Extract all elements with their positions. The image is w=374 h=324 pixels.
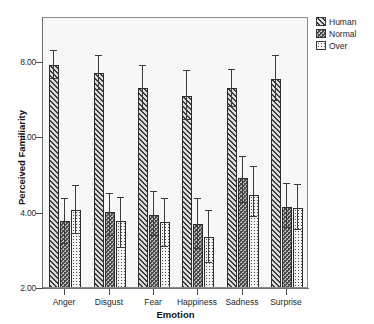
legend-swatch-over-icon [316,41,326,50]
error-bar-stem [208,210,209,263]
x-tick [64,289,65,295]
error-bar-cap-upper [72,185,79,186]
error-bar-cap-upper [294,184,301,185]
x-tick [197,289,198,295]
error-bar-cap-upper [61,198,68,199]
x-tick-label: Happiness [177,297,217,307]
bar [94,73,104,288]
error-bar-cap-upper [205,210,212,211]
error-bar-cap-lower [272,100,279,101]
y-tick [36,288,43,289]
error-bar-stem [164,198,165,246]
error-bar-cap-upper [183,70,190,71]
error-bar-stem [231,69,232,106]
y-tick [36,213,43,214]
plot-inner [43,18,307,287]
error-bar-cap-upper [239,156,246,157]
error-bar-cap-lower [95,89,102,90]
legend-swatch-normal-icon [316,29,326,38]
x-tick-label: Surprise [270,297,302,307]
x-tick [286,289,287,295]
y-tick-label: 2.00 [0,283,36,293]
bar-chart: 2.004.006.008.00AngerDisgustFearHappines… [0,0,374,324]
x-axis-line [42,288,309,289]
error-bar-stem [242,156,243,202]
error-bar-cap-upper [150,191,157,192]
error-bar-cap-lower [294,229,301,230]
error-bar-cap-upper [283,183,290,184]
error-bar-cap-upper [161,198,168,199]
x-axis-title: Emotion [42,309,309,320]
error-bar-stem [286,183,287,227]
error-bar-cap-upper [106,193,113,194]
y-tick [36,62,43,63]
error-bar-cap-upper [272,55,279,56]
error-bar-stem [197,198,198,249]
error-bar-cap-upper [228,69,235,70]
error-bar-stem [275,55,276,99]
legend-item-normal[interactable]: Normal [316,28,374,39]
x-tick-label: Fear [144,297,161,307]
error-bar-stem [75,185,76,232]
plot-area [42,17,308,288]
bar [138,88,148,288]
bar [60,221,70,288]
error-bar-cap-upper [139,65,146,66]
y-axis-line [42,17,43,288]
legend-label-over: Over [329,41,347,51]
error-bar-stem [98,55,99,88]
bar [193,224,203,288]
error-bar-stem [64,198,65,243]
error-bar-cap-lower [239,202,246,203]
error-bar-cap-lower [194,248,201,249]
error-bar-cap-lower [61,243,68,244]
error-bar-cap-lower [205,262,212,263]
legend-label-human: Human [329,17,356,27]
error-bar-cap-lower [161,246,168,247]
error-bar-stem [253,166,254,216]
error-bar-cap-upper [250,166,257,167]
legend-item-over[interactable]: Over [316,40,374,51]
bar [227,88,237,288]
error-bar-stem [53,50,54,78]
error-bar-cap-lower [283,227,290,228]
bar [71,210,81,288]
x-tick [153,289,154,295]
error-bar-cap-lower [50,78,57,79]
error-bar-cap-lower [117,247,124,248]
error-bar-stem [120,197,121,247]
error-bar-cap-lower [150,235,157,236]
error-bar-cap-lower [250,216,257,217]
error-bar-cap-upper [194,198,201,199]
bar [182,96,192,288]
x-tick [109,289,110,295]
error-bar-cap-lower [72,233,79,234]
error-bar-cap-lower [139,109,146,110]
bar [271,79,281,288]
error-bar-cap-upper [50,50,57,51]
error-bar-cap-lower [228,106,235,107]
y-tick-label: 8.00 [0,57,36,67]
error-bar-stem [186,70,187,119]
y-tick [36,137,43,138]
bar [49,65,59,288]
legend-label-normal: Normal [329,29,356,39]
error-bar-cap-upper [117,197,124,198]
x-tick-label: Anger [53,297,76,307]
error-bar-cap-lower [183,119,190,120]
legend-item-human[interactable]: Human [316,16,374,27]
x-tick-label: Disgust [95,297,123,307]
error-bar-stem [109,193,110,234]
y-axis-title: Perceived Familiarity [16,68,27,248]
error-bar-stem [153,191,154,235]
legend: Human Normal Over [316,16,374,52]
error-bar-stem [297,184,298,229]
x-tick [242,289,243,295]
error-bar-stem [142,65,143,109]
error-bar-cap-upper [95,55,102,56]
x-tick-label: Sadness [225,297,258,307]
legend-swatch-human-icon [316,17,326,26]
error-bar-cap-lower [106,235,113,236]
